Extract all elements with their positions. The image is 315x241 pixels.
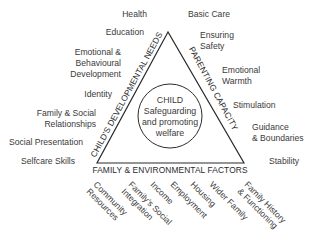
parenting-guidance-1: Guidance [252, 122, 289, 132]
parenting-basic-care: Basic Care [188, 9, 230, 19]
need-emotional-behavioural-1: Emotional & [75, 47, 122, 57]
need-selfcare-skills: Selfcare Skills [21, 156, 75, 166]
need-identity: Identity [84, 89, 112, 99]
center-line-2: and promoting [142, 117, 198, 127]
parenting-guidance-2: & Boundaries [252, 133, 304, 143]
need-family-social-2: Relationships [44, 119, 96, 129]
parenting-stability: Stability [269, 156, 300, 166]
assessment-framework-diagram: CHILD Safeguarding and promoting welfare… [0, 0, 315, 241]
need-health: Health [122, 9, 147, 19]
family-environmental-list: Community Resources Family's Social Inte… [85, 179, 289, 230]
parenting-stimulation: Stimulation [233, 100, 276, 110]
center-line-3: welfare [155, 128, 184, 138]
parenting-ensuring-safety-1: Ensuring [200, 30, 234, 40]
need-emotional-behavioural-3: Development [70, 69, 121, 79]
need-education: Education [106, 27, 144, 37]
need-family-social-1: Family & Social [37, 108, 96, 118]
center-line-1: Safeguarding [144, 106, 196, 116]
need-social-presentation: Social Presentation [9, 137, 83, 147]
center-title: CHILD [157, 95, 183, 105]
parenting-ensuring-safety-2: Safety [200, 41, 225, 51]
center-text: CHILD Safeguarding and promoting welfare [142, 95, 198, 138]
need-emotional-behavioural-2: Behavioural [76, 58, 121, 68]
parenting-emotional-warmth-2: Warmth [222, 76, 252, 86]
child-circle [138, 84, 202, 148]
parenting-capacity-list: Basic Care Ensuring Safety Emotional War… [188, 9, 304, 166]
parenting-emotional-warmth-1: Emotional [222, 65, 260, 75]
side-label-family-environmental: FAMILY & ENVIRONMENTAL FACTORS [92, 165, 247, 175]
